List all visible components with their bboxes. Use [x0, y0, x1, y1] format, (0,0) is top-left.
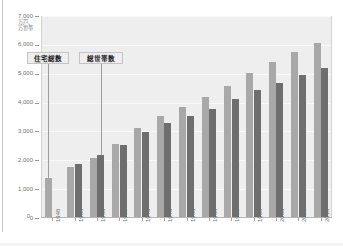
bar	[276, 83, 283, 218]
annotation-label-総世帯数: 総世帯数	[79, 52, 123, 64]
y-axis-tick	[35, 189, 39, 190]
y-axis-tick	[35, 131, 39, 132]
y-axis-unit-line-2: 万世帯	[3, 25, 33, 31]
annotation-leader-line	[101, 64, 102, 155]
y-axis: 01,0002,0003,0004,0005,0006,0007,000万戸、万…	[0, 0, 33, 246]
chart-page: 01,0002,0003,0004,0005,0006,0007,000万戸、万…	[0, 0, 343, 246]
x-axis-label-1993: 1993	[234, 209, 240, 222]
annotation-label-住宅総数: 住宅総数	[27, 52, 69, 64]
bar-chart: 01,0002,0003,0004,0005,0006,0007,000万戸、万…	[0, 0, 343, 246]
y-axis-tick	[35, 45, 39, 46]
x-axis-tick	[97, 218, 98, 221]
bar	[164, 123, 171, 218]
bar	[254, 90, 261, 218]
bar	[299, 75, 306, 218]
bar	[269, 62, 276, 218]
x-axis-label-1973: 1973	[145, 209, 151, 222]
bar	[157, 116, 164, 218]
y-axis-tick	[35, 160, 39, 161]
bar-group	[112, 16, 127, 218]
bar	[142, 132, 149, 218]
x-axis-label-1978: 1978	[167, 209, 173, 222]
bars-layer	[41, 16, 332, 218]
bar-group	[134, 16, 149, 218]
bar-group	[224, 16, 239, 218]
y-axis-tick	[35, 16, 39, 17]
bar-group	[246, 16, 261, 218]
bar	[246, 73, 253, 218]
y-axis-tick	[35, 74, 39, 75]
y-axis-label-0: 0	[0, 213, 30, 219]
bar-group	[269, 16, 284, 218]
x-axis-label-1968: 1968	[122, 209, 128, 222]
bar	[291, 52, 298, 218]
bar-group	[90, 16, 105, 218]
x-axis-label-1963: 1963	[100, 209, 106, 222]
bar	[209, 109, 216, 218]
x-axis-tick	[231, 218, 232, 221]
y-axis-label-5000: 5,000	[3, 70, 33, 77]
x-axis-label-1958: 1958	[78, 209, 84, 222]
x-axis-label-1983: 1983	[190, 209, 196, 222]
bar	[314, 43, 321, 218]
x-axis-label-2013: 2013	[324, 209, 330, 222]
x-axis-tick	[321, 218, 322, 221]
y-axis-label-3000: 3,000	[3, 128, 33, 135]
bar-group	[291, 16, 306, 218]
bar	[179, 107, 186, 218]
bar	[67, 167, 74, 218]
x-axis-tick	[119, 218, 120, 221]
x-axis-tick	[164, 218, 165, 221]
annotation-leader-line	[48, 64, 49, 178]
y-axis-label-4000: 4,000	[3, 99, 33, 106]
y-axis-label-1000: 1,000	[3, 186, 33, 193]
x-axis-tick	[187, 218, 188, 221]
bar	[112, 144, 119, 218]
bar	[321, 68, 328, 218]
bar	[134, 128, 141, 218]
bar	[187, 116, 194, 218]
bar	[232, 99, 239, 218]
x-axis-tick	[276, 218, 277, 221]
bar-group	[157, 16, 172, 218]
bar-group	[45, 16, 60, 218]
x-axis-tick	[52, 218, 53, 221]
y-axis-tick	[35, 103, 39, 104]
bar	[224, 86, 231, 218]
y-axis-tick	[35, 218, 39, 219]
bar-group	[67, 16, 82, 218]
y-axis-label-2000: 2,000	[3, 157, 33, 164]
bar-group	[179, 16, 194, 218]
x-axis-tick	[142, 218, 143, 221]
x-axis-label-1988: 1988	[212, 209, 218, 222]
bar	[45, 178, 52, 218]
bar	[90, 158, 97, 218]
x-axis-tick	[75, 218, 76, 221]
bar	[120, 145, 127, 218]
x-axis-label-2003: 2003	[279, 209, 285, 222]
x-axis-label-1948: 1948	[55, 209, 61, 222]
x-axis-tick	[209, 218, 210, 221]
x-axis-label-2008: 2008	[301, 209, 307, 222]
bar-group	[202, 16, 217, 218]
bar-group	[314, 16, 329, 218]
bar	[202, 97, 209, 218]
x-axis-label-1998: 1998	[257, 209, 263, 222]
x-axis-tick	[254, 218, 255, 221]
y-axis-label-6000: 6,000	[3, 41, 33, 48]
x-axis-tick	[298, 218, 299, 221]
